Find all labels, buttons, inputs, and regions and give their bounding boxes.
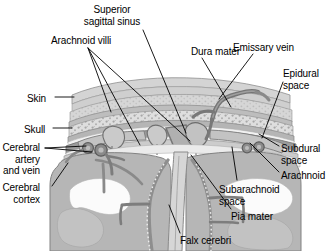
label-superior-sagittal-sinus: Superior sagittal sinus bbox=[52, 4, 172, 27]
cerebral-artery-lumen bbox=[98, 147, 103, 152]
label-subarachnoid-space: Subarachnoid space bbox=[219, 184, 280, 207]
label-skull: Skull bbox=[24, 124, 45, 136]
cerebral-vessel-right-1-lumen bbox=[245, 146, 249, 150]
label-arachnoid-villi: Arachnoid villi bbox=[51, 35, 111, 47]
anatomy-figure: Superior sagittal sinusArachnoid villiDu… bbox=[0, 0, 330, 251]
label-subdural-space: Subdural space bbox=[281, 143, 320, 166]
label-epidural-space: Epidural space bbox=[283, 68, 319, 91]
cerebral-vein-lumen bbox=[86, 146, 91, 151]
label-emissary-vein: Emissary vein bbox=[233, 42, 294, 54]
penetrating-vessel-left-1 bbox=[122, 204, 149, 205]
label-pia-mater: Pia mater bbox=[231, 211, 273, 223]
label-falx-cerebri: Falx cerebri bbox=[180, 235, 231, 247]
label-skin: Skin bbox=[27, 93, 46, 105]
label-cerebral-artery-and-vein: Cerebral artery and vein bbox=[0, 142, 40, 177]
cerebral-vessel-right-2-lumen bbox=[257, 145, 261, 149]
label-arachnoid: Arachnoid bbox=[281, 170, 325, 182]
cortical-vessel-descend-left bbox=[103, 164, 104, 192]
label-cerebral-cortex: Cerebral cortex bbox=[0, 182, 40, 205]
meninges-illustration bbox=[0, 0, 330, 251]
